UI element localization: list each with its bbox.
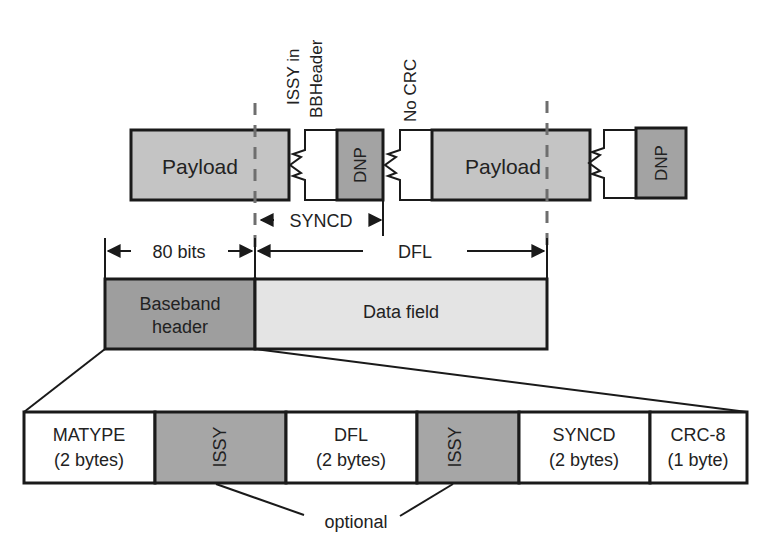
expansion-line-right (255, 349, 747, 412)
optional-label: optional (324, 512, 387, 532)
dimension-markers: SYNCD 80 bits DFL (105, 200, 547, 279)
field-crc8-size: (1 byte) (667, 450, 728, 470)
bbframe-diagram: Payload DNP Payload DNP ISSY in BBHeader… (0, 0, 768, 555)
syncd-label: SYNCD (289, 211, 352, 231)
field-dfl-name: DFL (334, 425, 368, 445)
field-matype (24, 412, 155, 483)
note-no-crc: No CRC (401, 59, 420, 122)
note-issy-in-bbheader-line1: ISSY in (284, 49, 303, 105)
dfl-label: DFL (398, 242, 432, 262)
header-fields: MATYPE (2 bytes) ISSY DFL (2 bytes) ISSY… (24, 412, 747, 483)
dnp-label-1: DNP (351, 147, 370, 183)
payload-label-2: Payload (465, 155, 541, 178)
field-matype-name: MATYPE (53, 425, 126, 445)
field-issy-2 (417, 412, 519, 483)
bbframe: Baseband header Data field (105, 279, 547, 349)
packet-boundary-notch-1 (290, 130, 337, 200)
baseband-header-block (105, 279, 255, 349)
packet-stream: Payload DNP Payload DNP ISSY in BBHeader… (131, 39, 686, 200)
payload-label-1: Payload (162, 155, 238, 178)
expansion-line-left (24, 349, 105, 412)
field-dfl-size: (2 bytes) (316, 450, 386, 470)
dnp-label-2: DNP (652, 145, 671, 181)
field-issy-1-label: ISSY (210, 426, 230, 467)
field-syncd (519, 412, 650, 483)
field-dfl (286, 412, 417, 483)
optional-leader-1 (216, 484, 304, 515)
data-field-label: Data field (363, 302, 439, 322)
header-bits-label: 80 bits (152, 242, 205, 262)
field-issy-2-label: ISSY (445, 426, 465, 467)
field-crc8 (650, 412, 747, 483)
field-syncd-name: SYNCD (552, 425, 615, 445)
baseband-header-label-line2: header (152, 317, 208, 337)
packet-boundary-notch-2 (385, 130, 432, 200)
field-crc8-name: CRC-8 (670, 425, 725, 445)
baseband-header-label-line1: Baseband (139, 294, 220, 314)
optional-leader-2 (400, 484, 453, 516)
field-syncd-size: (2 bytes) (549, 450, 619, 470)
note-issy-in-bbheader-line2: BBHeader (307, 39, 326, 118)
field-matype-size: (2 bytes) (54, 450, 124, 470)
packet-boundary-notch-3 (589, 130, 636, 198)
